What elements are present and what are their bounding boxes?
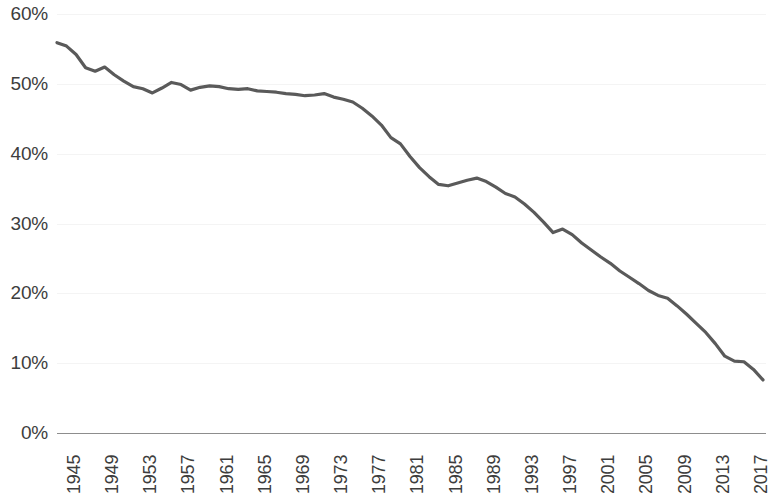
- x-axis-tick-label: 1985: [447, 455, 465, 494]
- x-axis-tick-label: 1977: [370, 455, 388, 494]
- x-axis-tick-label: 2013: [714, 455, 732, 494]
- x-axis-tick-label: 1981: [408, 455, 426, 494]
- x-axis-tick-label: 2005: [637, 455, 655, 494]
- x-axis-tick-label: 1997: [561, 455, 579, 494]
- x-axis-tick-label: 2009: [676, 455, 694, 494]
- x-axis-tick-label: 1949: [103, 455, 121, 494]
- x-axis-tick-label: 2001: [599, 455, 617, 494]
- x-axis-tick-label: 1969: [294, 455, 312, 494]
- x-axis-tick-label: 1957: [179, 455, 197, 494]
- x-axis-tick-label: 1961: [218, 455, 236, 494]
- x-axis-tick-label: 1989: [485, 455, 503, 494]
- x-axis-tick-label: 1973: [332, 455, 350, 494]
- x-axis-tick-label: 1953: [141, 455, 159, 494]
- x-axis-tick-label: 1993: [523, 455, 541, 494]
- x-axis-tick-label: 1945: [65, 455, 83, 494]
- x-axis-tick-label: 2017: [752, 455, 770, 494]
- x-axis-tick-label: 1965: [256, 455, 274, 494]
